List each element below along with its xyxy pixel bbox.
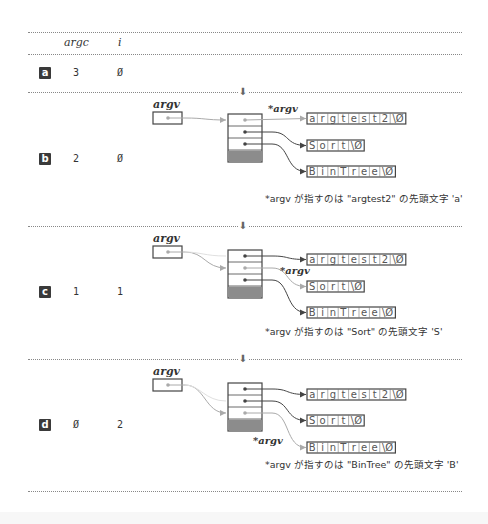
string-char: e [361,166,367,177]
string-char: S [309,140,315,151]
string-char: S [309,415,315,426]
argv-label: argv [153,365,181,378]
previous-argv-edge [185,385,226,401]
string-char: \Ø [351,140,362,151]
string-char: T [339,307,347,318]
string-char: g [330,113,336,124]
string-char: t [373,113,377,124]
string-char: o [320,281,326,292]
argv-label: argv [153,232,181,245]
arrow-head-icon [300,418,306,424]
string-char: 2 [382,113,388,124]
string-char: t [373,254,377,265]
string-char: B [309,307,316,318]
string-char: t [341,281,345,292]
string-char: g [330,254,336,265]
arrow-head-icon [300,169,306,175]
arrow-head-icon [300,257,306,263]
string-char: e [372,442,378,453]
string-char: \Ø [382,307,393,318]
string-char: 2 [382,254,388,265]
string-char: a [309,254,315,265]
string-char: t [373,389,377,400]
string-char: e [351,389,357,400]
pointer-diagram: argvargtest2\ØSort\ØBinTree\Ø*argvargvar… [0,0,488,524]
string-char: \Ø [351,281,362,292]
string-char: \Ø [382,442,393,453]
arrow-head-icon [300,284,306,290]
deref-argv-label: *argv [268,103,298,114]
string-char: s [362,113,367,124]
arrow-head-icon [300,445,306,451]
null-pointer-cell [229,151,262,162]
string-char: i [321,307,324,318]
string-char: n [330,442,336,453]
string-char: S [309,281,315,292]
deref-argv-label: *argv [253,435,283,446]
string-char: t [341,415,345,426]
string-char: i [321,442,324,453]
string-char: \Ø [351,415,362,426]
arrow-head-icon [300,310,306,316]
string-char: t [341,254,345,265]
string-char: e [372,166,378,177]
string-char: a [309,389,315,400]
string-char: n [330,166,336,177]
arrow-head-icon [300,143,306,149]
string-char: g [330,389,336,400]
string-char: e [351,254,357,265]
arrow-head-icon [300,116,306,122]
string-char: e [361,442,367,453]
string-char: T [339,166,347,177]
string-char: o [320,415,326,426]
arrow-head-icon [220,117,226,123]
string-char: s [362,254,367,265]
string-char: B [309,166,316,177]
arrow-head-icon [220,410,226,416]
page-bottom-edge [0,512,488,524]
string-char: n [330,307,336,318]
string-char: s [362,389,367,400]
string-char: i [321,166,324,177]
argv-label: argv [153,98,181,111]
string-char: t [341,140,345,151]
arrow-head-icon [220,265,226,271]
string-char: T [339,442,347,453]
arrow-head-icon [300,392,306,398]
string-char: o [320,140,326,151]
previous-argv-edge [185,252,226,256]
deref-argv-label: *argv [280,265,310,276]
string-char: e [372,307,378,318]
null-pointer-cell [229,420,262,431]
caption-b: *argv が指すのは "argtest2" の先頭文字 'a' [265,191,463,205]
caption-c: *argv が指すのは "Sort" の先頭文字 'S' [265,324,443,338]
string-char: 2 [382,389,388,400]
caption-d: *argv が指すのは "BinTree" の先頭文字 'B' [265,457,459,471]
string-char: \Ø [392,113,403,124]
string-char: e [361,307,367,318]
null-pointer-cell [229,287,262,298]
string-char: B [309,442,316,453]
string-char: a [309,113,315,124]
string-char: e [351,113,357,124]
string-char: \Ø [392,389,403,400]
string-char: \Ø [382,166,393,177]
string-char: t [341,113,345,124]
string-char: \Ø [392,254,403,265]
string-char: t [341,389,345,400]
